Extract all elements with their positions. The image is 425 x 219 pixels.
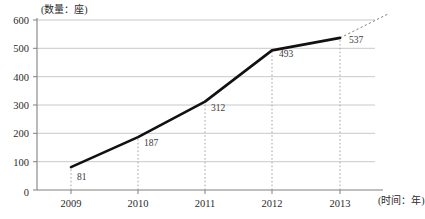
chart-canvas: 600 500 400 300 200 100 0 (数量：座) bbox=[0, 0, 425, 219]
point-label-2009: 81 bbox=[77, 172, 87, 182]
ytick-label-300: 300 bbox=[13, 100, 29, 111]
point-label-2011: 312 bbox=[211, 103, 226, 113]
xtick-label-2013: 2013 bbox=[330, 198, 351, 209]
droplines bbox=[71, 38, 340, 190]
axis-lines bbox=[37, 18, 383, 190]
point-label-2013: 537 bbox=[349, 35, 364, 45]
data-line-series bbox=[71, 38, 340, 167]
ytick-label-200: 200 bbox=[13, 128, 29, 139]
y-axis-ticks: 600 500 400 300 200 100 0 bbox=[13, 15, 37, 198]
x-axis-ticks bbox=[71, 190, 340, 194]
ytick-label-600: 600 bbox=[13, 15, 29, 26]
xtick-label-2011: 2011 bbox=[195, 198, 216, 209]
ytick-label-0: 0 bbox=[24, 187, 29, 198]
data-point-labels: 81 187 312 493 537 bbox=[77, 35, 364, 182]
point-label-2012: 493 bbox=[279, 49, 294, 59]
ytick-label-500: 500 bbox=[13, 43, 29, 54]
xtick-label-2009: 2009 bbox=[61, 198, 82, 209]
projection-trend-line bbox=[340, 14, 388, 38]
y-axis-caption: (数量：座) bbox=[41, 3, 88, 16]
point-label-2010: 187 bbox=[144, 138, 159, 148]
xtick-label-2012: 2012 bbox=[262, 198, 283, 209]
line-chart: 600 500 400 300 200 100 0 (数量：座) bbox=[0, 0, 425, 219]
xtick-label-2010: 2010 bbox=[128, 198, 149, 209]
x-axis-tick-labels: 2009 2010 2011 2012 2013 bbox=[61, 198, 351, 209]
ytick-label-100: 100 bbox=[13, 157, 29, 168]
x-axis-caption: (时间：年) bbox=[378, 194, 425, 207]
ytick-label-400: 400 bbox=[13, 72, 29, 83]
